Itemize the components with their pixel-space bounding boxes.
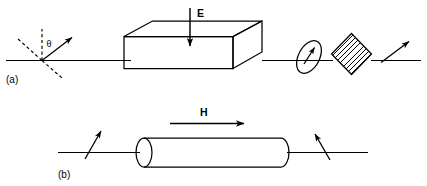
h-field-label: H bbox=[200, 106, 208, 118]
dashed-axis-upper-left bbox=[17, 38, 42, 61]
panel-a: θ E bbox=[6, 7, 421, 86]
panel-b-label: (b) bbox=[58, 169, 70, 180]
slab-front-face bbox=[124, 37, 233, 69]
crystal-slab-a bbox=[124, 21, 262, 69]
hatched-polarizer-a bbox=[327, 26, 379, 81]
slab-top-face bbox=[124, 21, 262, 37]
input-polarizer-a: θ bbox=[17, 29, 72, 78]
panel-a-label: (a) bbox=[6, 74, 18, 85]
polarization-arrow-output-b bbox=[315, 134, 330, 160]
cylinder-rod-b bbox=[136, 138, 289, 167]
ellipse-inner-arrow bbox=[304, 48, 315, 65]
electric-field-arrow-a: E bbox=[190, 7, 204, 47]
slab-right-face bbox=[233, 21, 262, 69]
analyzer-ellipse-a bbox=[292, 37, 327, 78]
e-field-label: E bbox=[197, 7, 204, 19]
polarization-arrow-output-a bbox=[381, 42, 409, 63]
dashed-axis-lower-right bbox=[42, 61, 62, 79]
polarization-arrow-input-b bbox=[85, 131, 101, 159]
magnetic-field-arrow-b: H bbox=[170, 106, 244, 124]
figure-root: θ E bbox=[0, 0, 427, 186]
theta-label: θ bbox=[47, 39, 52, 49]
panel-b: H (b) bbox=[58, 106, 368, 180]
optical-modulator-figure: θ E bbox=[0, 0, 427, 186]
